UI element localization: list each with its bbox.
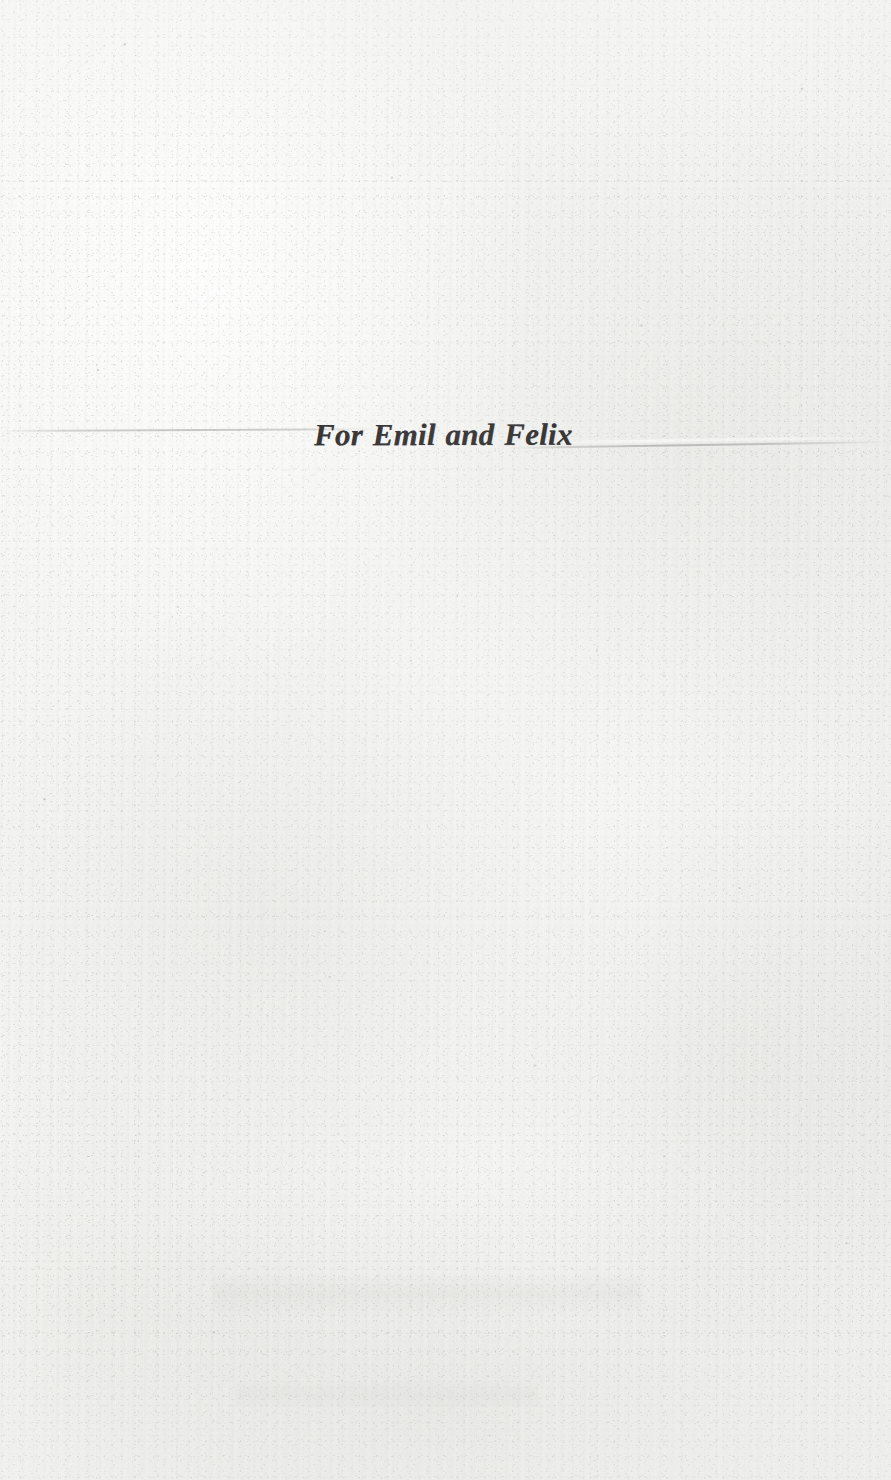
paper-grain-texture xyxy=(0,0,891,1480)
scan-haze-overlay xyxy=(0,0,891,1480)
paper-fiber-streaks xyxy=(0,0,891,1480)
dedication-block: For Emil and Felix xyxy=(0,415,891,455)
paper-grain-fine-texture xyxy=(0,0,891,1480)
dedication-text: For Emil and Felix xyxy=(314,415,573,456)
dedication-page: For Emil and Felix xyxy=(0,0,891,1480)
reverse-side-show-through xyxy=(0,0,891,1480)
paper-foxing-specks xyxy=(0,0,891,1480)
